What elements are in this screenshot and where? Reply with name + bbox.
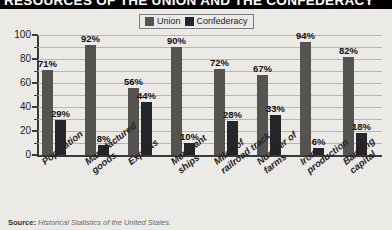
- bar-value-label: 67%: [253, 64, 272, 74]
- y-tick-minor: [34, 143, 38, 144]
- y-axis-tick-label: 80: [1, 54, 31, 64]
- y-axis-tick-label: 60: [1, 78, 31, 88]
- bar-value-label: 18%: [352, 122, 371, 132]
- x-axis-category-labels: PopulationManufacturedgoodsExportsMercha…: [0, 157, 392, 213]
- bar-union[interactable]: 92%: [85, 45, 96, 155]
- y-tick-major: [32, 154, 38, 156]
- bar-group: 82%18%: [339, 35, 382, 155]
- bar-value-label: 92%: [81, 34, 100, 44]
- legend-label: Confederacy: [197, 17, 248, 26]
- chart-legend: UnionConfederacy: [139, 14, 254, 29]
- source-text: Historical Statistics of the United Stat…: [38, 218, 171, 227]
- y-tick-minor: [34, 119, 38, 120]
- page-title: RESOURCES OF THE UNION AND THE CONFEDERA…: [4, 0, 374, 8]
- legend-label: Union: [157, 17, 181, 26]
- bar-value-label: 44%: [137, 91, 156, 101]
- y-axis-tick-label: 100: [1, 30, 31, 40]
- y-tick-major: [32, 34, 38, 36]
- y-tick-minor: [34, 47, 38, 48]
- bar-value-label: 71%: [38, 59, 57, 69]
- y-tick-major: [32, 106, 38, 108]
- bar-value-label: 28%: [223, 110, 242, 120]
- bar-value-label: 29%: [51, 109, 70, 119]
- bar-value-label: 94%: [296, 31, 315, 41]
- union-swatch: [145, 17, 154, 26]
- y-tick-major: [32, 82, 38, 84]
- bar-value-label: 72%: [210, 58, 229, 68]
- chart-title-band: RESOURCES OF THE UNION AND THE CONFEDERA…: [0, 0, 392, 9]
- source-note: Source: Historical Statistics of the Uni…: [8, 218, 171, 227]
- bar-value-label: 90%: [167, 36, 186, 46]
- confederacy-swatch: [185, 17, 194, 26]
- legend-item-union[interactable]: Union: [145, 17, 181, 26]
- y-tick-major: [32, 130, 38, 132]
- bar-value-label: 82%: [339, 46, 358, 56]
- bar-union[interactable]: 94%: [300, 42, 311, 155]
- source-label: Source:: [8, 218, 36, 227]
- y-axis-tick-label: 40: [1, 102, 31, 112]
- chart-figure: UnionConfederacy 020406080100 71%29%92%8…: [0, 9, 392, 230]
- y-tick-minor: [34, 71, 38, 72]
- bar-value-label: 56%: [124, 77, 143, 87]
- y-axis-tick-label: 20: [1, 126, 31, 136]
- y-tick-major: [32, 58, 38, 60]
- legend-item-confederacy[interactable]: Confederacy: [185, 17, 248, 26]
- y-tick-minor: [34, 95, 38, 96]
- bar-value-label: 33%: [266, 104, 285, 114]
